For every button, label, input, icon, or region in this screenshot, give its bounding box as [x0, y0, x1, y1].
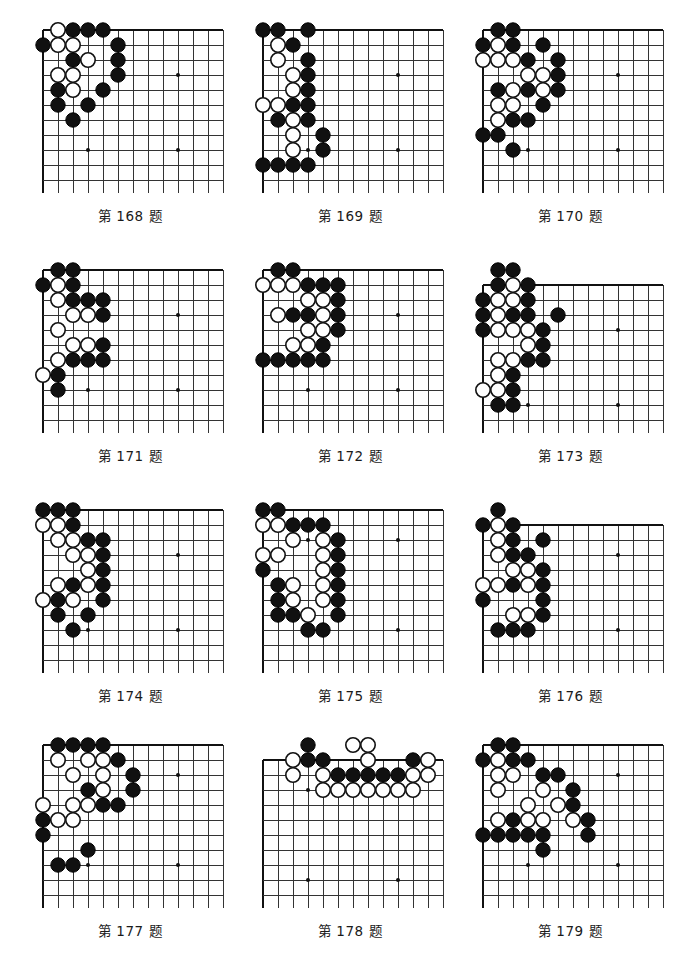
black-stone[interactable] [36, 813, 50, 827]
black-stone[interactable] [316, 128, 330, 142]
black-stone[interactable] [506, 368, 520, 382]
black-stone[interactable] [111, 753, 125, 767]
white-stone[interactable] [81, 548, 95, 562]
black-stone[interactable] [536, 828, 550, 842]
white-stone[interactable] [491, 533, 505, 547]
black-stone[interactable] [36, 38, 50, 52]
white-stone[interactable] [51, 578, 65, 592]
white-stone[interactable] [316, 578, 330, 592]
black-stone[interactable] [536, 353, 550, 367]
white-stone[interactable] [506, 353, 520, 367]
black-stone[interactable] [506, 623, 520, 637]
black-stone[interactable] [506, 308, 520, 322]
black-stone[interactable] [301, 113, 315, 127]
white-stone[interactable] [316, 783, 330, 797]
white-stone[interactable] [51, 813, 65, 827]
white-stone[interactable] [36, 798, 50, 812]
black-stone[interactable] [256, 158, 270, 172]
go-board-177[interactable] [35, 737, 225, 912]
white-stone[interactable] [421, 768, 435, 782]
black-stone[interactable] [81, 293, 95, 307]
black-stone[interactable] [66, 623, 80, 637]
white-stone[interactable] [256, 548, 270, 562]
black-stone[interactable] [491, 398, 505, 412]
black-stone[interactable] [81, 353, 95, 367]
black-stone[interactable] [301, 518, 315, 532]
black-stone[interactable] [331, 578, 345, 592]
black-stone[interactable] [66, 503, 80, 517]
black-stone[interactable] [506, 753, 520, 767]
black-stone[interactable] [66, 53, 80, 67]
white-stone[interactable] [81, 338, 95, 352]
go-board-179[interactable] [475, 737, 665, 912]
black-stone[interactable] [81, 98, 95, 112]
white-stone[interactable] [96, 768, 110, 782]
black-stone[interactable] [66, 518, 80, 532]
black-stone[interactable] [271, 353, 285, 367]
white-stone[interactable] [271, 98, 285, 112]
white-stone[interactable] [286, 578, 300, 592]
black-stone[interactable] [271, 263, 285, 277]
black-stone[interactable] [506, 548, 520, 562]
black-stone[interactable] [51, 593, 65, 607]
black-stone[interactable] [476, 323, 490, 337]
black-stone[interactable] [51, 263, 65, 277]
white-stone[interactable] [476, 578, 490, 592]
white-stone[interactable] [521, 68, 535, 82]
go-board-172[interactable] [255, 262, 445, 437]
white-stone[interactable] [271, 53, 285, 67]
white-stone[interactable] [256, 278, 270, 292]
white-stone[interactable] [256, 98, 270, 112]
white-stone[interactable] [361, 753, 375, 767]
white-stone[interactable] [66, 548, 80, 562]
black-stone[interactable] [331, 548, 345, 562]
white-stone[interactable] [476, 383, 490, 397]
white-stone[interactable] [521, 608, 535, 622]
black-stone[interactable] [491, 278, 505, 292]
white-stone[interactable] [506, 768, 520, 782]
white-stone[interactable] [421, 753, 435, 767]
black-stone[interactable] [521, 293, 535, 307]
black-stone[interactable] [521, 548, 535, 562]
go-board-171[interactable] [35, 262, 225, 437]
black-stone[interactable] [506, 398, 520, 412]
black-stone[interactable] [126, 783, 140, 797]
white-stone[interactable] [286, 83, 300, 97]
black-stone[interactable] [551, 308, 565, 322]
black-stone[interactable] [346, 768, 360, 782]
white-stone[interactable] [66, 308, 80, 322]
white-stone[interactable] [491, 53, 505, 67]
black-stone[interactable] [96, 563, 110, 577]
black-stone[interactable] [476, 518, 490, 532]
black-stone[interactable] [491, 23, 505, 37]
go-board-178[interactable] [255, 737, 445, 912]
black-stone[interactable] [536, 98, 550, 112]
white-stone[interactable] [271, 548, 285, 562]
white-stone[interactable] [491, 38, 505, 52]
white-stone[interactable] [286, 278, 300, 292]
black-stone[interactable] [286, 263, 300, 277]
black-stone[interactable] [66, 353, 80, 367]
white-stone[interactable] [316, 548, 330, 562]
black-stone[interactable] [566, 798, 580, 812]
white-stone[interactable] [96, 783, 110, 797]
black-stone[interactable] [551, 53, 565, 67]
white-stone[interactable] [346, 738, 360, 752]
black-stone[interactable] [316, 278, 330, 292]
white-stone[interactable] [51, 353, 65, 367]
white-stone[interactable] [66, 83, 80, 97]
black-stone[interactable] [536, 768, 550, 782]
black-stone[interactable] [581, 813, 595, 827]
white-stone[interactable] [506, 83, 520, 97]
black-stone[interactable] [521, 113, 535, 127]
black-stone[interactable] [66, 293, 80, 307]
black-stone[interactable] [566, 783, 580, 797]
white-stone[interactable] [491, 578, 505, 592]
white-stone[interactable] [536, 83, 550, 97]
white-stone[interactable] [96, 753, 110, 767]
black-stone[interactable] [51, 383, 65, 397]
white-stone[interactable] [66, 593, 80, 607]
black-stone[interactable] [96, 23, 110, 37]
white-stone[interactable] [536, 813, 550, 827]
black-stone[interactable] [301, 98, 315, 112]
